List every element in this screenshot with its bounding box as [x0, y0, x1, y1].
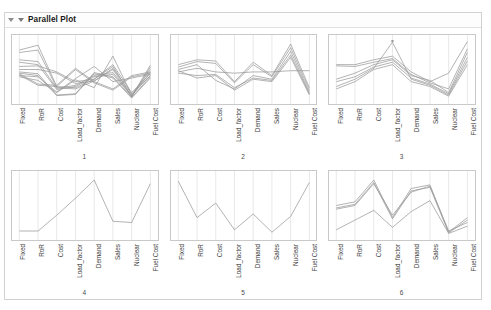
parallel-plot-panel-2[interactable]: FixedRoRCostLoad_factorDemandSalesNuclea…	[164, 28, 323, 164]
series-line[interactable]	[19, 179, 150, 230]
parallel-plot-panel-5[interactable]: FixedRoRCostLoad_factorDemandSalesNuclea…	[164, 164, 323, 300]
axis-label-demand: Demand	[255, 108, 261, 132]
series-line[interactable]	[178, 68, 309, 73]
axis-label-demand: Demand	[96, 244, 102, 268]
axis-label-ror: RoR	[357, 108, 363, 121]
series-line[interactable]	[337, 49, 468, 89]
axis-label-demand: Demand	[414, 244, 420, 268]
parallel-plot-panel-6[interactable]: FixedRoRCostLoad_factorDemandSalesNuclea…	[322, 164, 481, 300]
axis-label-fixed: Fixed	[20, 108, 26, 124]
plot-area-2[interactable]	[170, 34, 318, 105]
axis-label-nuclear: Nuclear	[134, 244, 140, 266]
plot-area-3[interactable]	[328, 34, 476, 105]
series-line[interactable]	[178, 55, 309, 94]
axis-label-sales: Sales	[433, 244, 439, 260]
page-title: Parallel Plot	[28, 16, 76, 24]
axis-label-load-factor: Load_factor	[395, 244, 401, 278]
parallel-plot-grid: FixedRoRCostLoad_factorDemandSalesNuclea…	[5, 28, 481, 299]
panel-number-label: 4	[5, 290, 164, 297]
parallel-plot-panel-4[interactable]: FixedRoRCostLoad_factorDemandSalesNuclea…	[5, 164, 164, 300]
axis-label-cost: Cost	[58, 244, 64, 257]
axis-label-fixed: Fixed	[179, 244, 185, 260]
axis-label-nuclear: Nuclear	[134, 108, 140, 130]
axis-label-load-factor: Load_factor	[77, 244, 83, 278]
series-line[interactable]	[178, 48, 309, 91]
axis-label-sales: Sales	[115, 244, 121, 260]
disclosure-triangle-outer-icon[interactable]	[8, 18, 14, 22]
axis-label-cost: Cost	[217, 244, 223, 257]
axis-label-sales: Sales	[274, 244, 280, 260]
panel-number-label: 6	[322, 290, 481, 297]
axis-label-fixed: Fixed	[338, 108, 344, 124]
report-title-bar: Parallel Plot	[5, 13, 481, 28]
panel-number-label: 3	[322, 154, 481, 161]
axis-label-fixed: Fixed	[338, 244, 344, 260]
series-line[interactable]	[337, 42, 468, 95]
axis-label-ror: RoR	[198, 244, 204, 257]
series-line[interactable]	[19, 56, 150, 95]
axis-label-cost: Cost	[217, 108, 223, 121]
axis-label-fixed: Fixed	[20, 244, 26, 260]
plot-area-4[interactable]	[11, 170, 159, 241]
axis-label-nuclear: Nuclear	[452, 244, 458, 266]
panel-number-label: 5	[164, 290, 323, 297]
plot-canvas-6	[329, 171, 475, 240]
axis-label-sales: Sales	[115, 108, 121, 124]
axis-label-fuel-cost: Fuel Cost	[153, 244, 159, 271]
axis-label-demand: Demand	[96, 108, 102, 132]
axis-label-fuel-cost: Fuel Cost	[312, 108, 318, 135]
parallel-plot-panel-3[interactable]: FixedRoRCostLoad_factorDemandSalesNuclea…	[322, 28, 481, 164]
axis-label-cost: Cost	[58, 108, 64, 121]
series-line[interactable]	[19, 65, 150, 93]
panel-number-label: 2	[164, 154, 323, 161]
series-line[interactable]	[19, 66, 150, 92]
plot-canvas-3	[329, 35, 475, 104]
series-line[interactable]	[337, 183, 468, 230]
series-line[interactable]	[337, 179, 468, 231]
axis-label-fuel-cost: Fuel Cost	[471, 244, 477, 271]
panel-number-label: 1	[5, 154, 164, 161]
plot-canvas-1	[12, 35, 158, 104]
axis-label-nuclear: Nuclear	[293, 108, 299, 130]
series-line[interactable]	[337, 182, 468, 232]
axis-label-ror: RoR	[39, 244, 45, 257]
axis-label-fuel-cost: Fuel Cost	[312, 244, 318, 271]
series-line[interactable]	[337, 65, 468, 97]
axis-label-load-factor: Load_factor	[236, 244, 242, 278]
axis-label-fixed: Fixed	[179, 108, 185, 124]
parallel-plot-report: Parallel Plot FixedRoRCostLoad_factorDem…	[4, 12, 482, 300]
disclosure-triangle-inner-icon[interactable]	[18, 18, 24, 22]
axis-label-ror: RoR	[39, 108, 45, 121]
axis-label-load-factor: Load_factor	[236, 108, 242, 142]
series-line[interactable]	[19, 45, 150, 96]
plot-area-5[interactable]	[170, 170, 318, 241]
axis-label-cost: Cost	[376, 244, 382, 257]
series-line[interactable]	[178, 181, 309, 232]
axis-label-demand: Demand	[414, 108, 420, 132]
axis-label-nuclear: Nuclear	[452, 108, 458, 130]
axis-label-load-factor: Load_factor	[77, 108, 83, 142]
axis-label-load-factor: Load_factor	[395, 108, 401, 142]
parallel-plot-panel-1[interactable]: FixedRoRCostLoad_factorDemandSalesNuclea…	[5, 28, 164, 164]
series-line[interactable]	[178, 57, 309, 95]
series-line[interactable]	[19, 50, 150, 97]
plot-area-1[interactable]	[11, 34, 159, 105]
axis-label-fuel-cost: Fuel Cost	[153, 108, 159, 135]
series-line[interactable]	[337, 52, 468, 92]
axis-label-sales: Sales	[274, 108, 280, 124]
series-line[interactable]	[337, 42, 468, 82]
plot-canvas-4	[12, 171, 158, 240]
axis-label-fuel-cost: Fuel Cost	[471, 108, 477, 135]
plot-area-6[interactable]	[328, 170, 476, 241]
axis-label-cost: Cost	[376, 108, 382, 121]
data-point-marker[interactable]	[391, 40, 394, 42]
axis-label-demand: Demand	[255, 244, 261, 268]
axis-label-ror: RoR	[198, 108, 204, 121]
axis-label-nuclear: Nuclear	[293, 244, 299, 266]
plot-canvas-2	[171, 35, 317, 104]
series-line[interactable]	[19, 68, 150, 89]
axis-label-sales: Sales	[433, 108, 439, 124]
axis-label-ror: RoR	[357, 244, 363, 257]
plot-canvas-5	[171, 171, 317, 240]
